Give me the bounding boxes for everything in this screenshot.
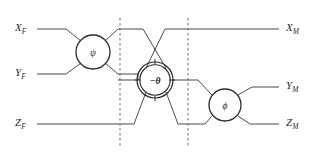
- wire-x-in-to-psi: [37, 29, 81, 41]
- figure-canvas: ψ −θ ϕ XF YF ZF XM Y: [0, 0, 315, 158]
- input-label-z: ZF: [15, 117, 26, 131]
- output-label-x: XM: [286, 22, 299, 36]
- output-label-x-base: X: [286, 21, 293, 33]
- minus-theta-gate-label: −θ: [150, 76, 161, 86]
- input-label-x-base: X: [15, 21, 22, 33]
- output-label-y-sub: M: [292, 85, 298, 94]
- output-label-y: YM: [286, 80, 298, 94]
- wire-z-to-theta: [134, 92, 146, 124]
- input-label-y-sub: F: [21, 72, 26, 81]
- phi-gate[interactable]: ϕ: [209, 89, 241, 121]
- wire-y-in-to-psi: [37, 63, 81, 74]
- input-label-x-sub: F: [22, 27, 27, 36]
- wire-phi-to-y-out: [238, 87, 279, 95]
- output-label-z: ZM: [286, 117, 298, 131]
- input-label-x: XF: [15, 22, 26, 36]
- wire-theta-right-stub: [172, 80, 212, 95]
- input-label-y: YF: [15, 67, 26, 81]
- phi-gate-label: ϕ: [223, 101, 228, 111]
- circuit-diagram: ψ −θ ϕ: [0, 0, 315, 158]
- wire-phi-to-z-out: [238, 116, 279, 124]
- wire-psi-to-theta: [105, 63, 138, 80]
- minus-theta-gate[interactable]: −θ: [135, 59, 175, 101]
- psi-gate[interactable]: ψ: [76, 35, 110, 69]
- input-label-z-sub: F: [21, 122, 26, 131]
- wire-theta-to-lower-rail: [166, 92, 205, 124]
- wire-psi-to-upper-rail: [105, 29, 143, 41]
- wire-lower-rail-to-phi: [205, 116, 212, 124]
- output-label-z-sub: M: [292, 122, 298, 131]
- output-label-x-sub: M: [293, 27, 299, 36]
